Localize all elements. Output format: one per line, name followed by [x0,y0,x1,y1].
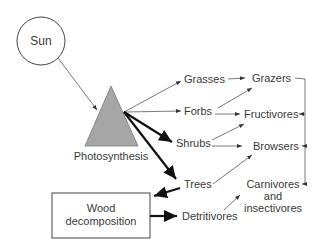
edge-grasses-grazers [228,78,245,79]
grasses-label: Grasses [184,73,225,85]
fructivores-label: Fructivores [244,108,298,120]
carnivores-label-line1: Carnivores [240,178,306,190]
wood-label-line2: decomposition [52,215,150,227]
trees-label: Trees [184,178,212,190]
sun-label: Sun [17,35,65,47]
edge-trees-wood [154,188,180,196]
edge-sun-photosynthesis [58,58,97,110]
edge-photo-grasses [124,81,181,112]
bracket-line [302,79,305,184]
photosynthesis-label: Photosynthesis [66,150,156,162]
edge-photo-forbs [124,111,181,112]
shrubs-label: Shrubs [176,137,211,149]
grazers-label: Grazers [252,72,291,84]
forbs-label: Forbs [184,105,212,117]
edge-grazers-bracket [295,78,305,79]
edge-detritivores-carnivores [224,195,240,210]
browsers-label: Browsers [253,140,299,152]
edge-forbs-grazers [218,88,252,108]
wood-label-line1: Wood [52,202,150,214]
detritivores-label: Detritivores [182,210,238,222]
edge-shrubs-fructivores [212,124,244,140]
carnivores-label-line3: insectivores [240,202,306,214]
carnivores-label-line2: and [240,190,306,202]
